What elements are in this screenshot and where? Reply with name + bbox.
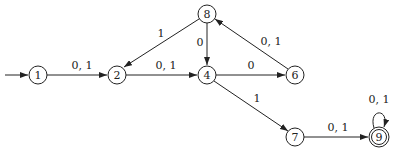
state-label: 8 [204,8,211,21]
state-label: 9 [376,131,383,144]
automaton-diagram: 0, 1 0, 1 1 0 0 0, 1 1 0, 1 0, 1 1 2 [0,0,393,154]
state-label: 1 [35,69,42,82]
edge-label: 0, 1 [328,121,349,134]
edge-2-4: 0, 1 [126,59,197,75]
state-4: 4 [198,66,216,84]
state-label: 2 [114,69,121,82]
edge-label: 0, 1 [369,93,390,106]
edge-1-2: 0, 1 [47,59,107,75]
edge-7-9: 0, 1 [304,121,368,137]
state-label: 7 [292,131,299,144]
state-7: 7 [286,128,304,146]
state-label: 6 [292,69,299,82]
state-8: 8 [198,5,216,23]
edge-4-7: 1 [214,81,288,131]
edge-label: 0, 1 [261,35,282,48]
edge-8-4: 0 [197,23,208,65]
state-6: 6 [286,66,304,84]
edge-9-9-loop: 0, 1 [369,93,390,128]
state-9-accepting: 9 [369,127,389,147]
edge-label: 0 [197,36,204,49]
state-label: 4 [204,69,211,82]
state-1: 1 [29,66,47,84]
edge-label: 0, 1 [156,59,177,72]
state-2: 2 [108,66,126,84]
edge-label: 1 [254,92,261,105]
edge-label: 1 [158,27,165,40]
edge-label: 0 [248,59,255,72]
edge-label: 0, 1 [72,59,93,72]
edge-4-6: 0 [216,59,285,75]
